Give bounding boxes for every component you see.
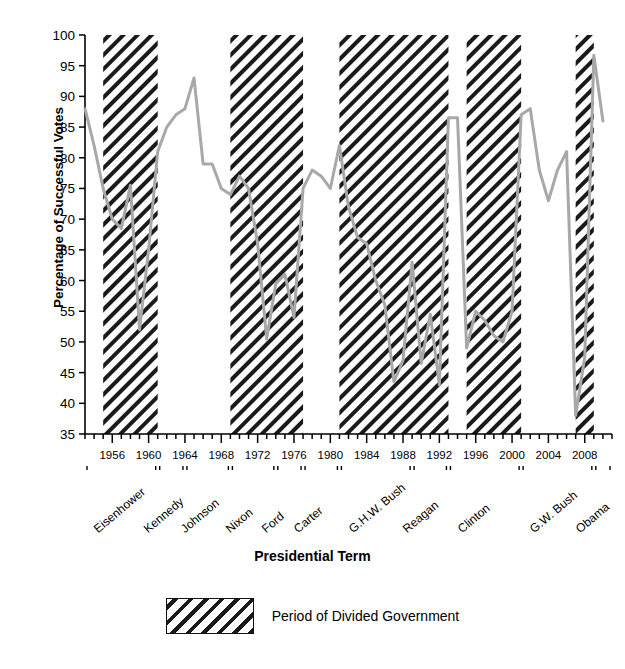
divided-government-regions: [103, 35, 594, 434]
svg-text:1960: 1960: [136, 449, 162, 461]
president-label: Reagan: [400, 498, 441, 536]
svg-text:90: 90: [60, 89, 75, 104]
svg-text:2004: 2004: [536, 449, 562, 461]
svg-text:65: 65: [60, 243, 75, 258]
divided-government-span: [467, 35, 522, 434]
svg-text:95: 95: [60, 59, 75, 74]
chart-figure: Percentage of Successful Votes 354045505…: [0, 0, 625, 669]
term-bracket: [450, 466, 519, 470]
svg-text:2008: 2008: [572, 449, 598, 461]
president-label: G.H.W. Bush: [346, 480, 408, 535]
term-bracket: [341, 466, 410, 470]
svg-text:1976: 1976: [281, 449, 307, 461]
plot-area: 3540455055606570758085909510019561960196…: [0, 0, 625, 470]
divided-government-swatch-icon: [166, 598, 254, 634]
president-label: Clinton: [455, 501, 493, 536]
legend-label: Period of Divided Government: [272, 608, 460, 624]
svg-text:80: 80: [60, 151, 75, 166]
divided-government-span: [576, 35, 594, 434]
term-bracket: [523, 466, 592, 470]
president-label: Obama: [573, 500, 612, 536]
term-bracket: [305, 466, 337, 470]
president-label: G.W. Bush: [527, 488, 580, 536]
term-bracket: [414, 466, 446, 470]
svg-text:45: 45: [60, 366, 75, 381]
svg-text:1980: 1980: [318, 449, 344, 461]
svg-text:60: 60: [60, 274, 75, 289]
svg-text:2000: 2000: [499, 449, 525, 461]
president-label: Kennedy: [141, 495, 186, 536]
svg-text:100: 100: [52, 28, 75, 43]
divided-government-span: [230, 35, 303, 434]
svg-text:50: 50: [60, 335, 75, 350]
svg-text:40: 40: [60, 396, 75, 411]
term-bracket: [596, 466, 610, 470]
svg-text:1964: 1964: [172, 449, 198, 461]
svg-text:70: 70: [60, 212, 75, 227]
svg-text:1972: 1972: [245, 449, 271, 461]
svg-text:1992: 1992: [427, 449, 453, 461]
svg-text:1984: 1984: [354, 449, 380, 461]
svg-text:75: 75: [60, 181, 75, 196]
president-label: Johnson: [178, 496, 222, 536]
president-label: Ford: [259, 509, 287, 536]
term-bracket: [187, 466, 228, 470]
term-bracket: [278, 466, 301, 470]
svg-text:85: 85: [60, 120, 75, 135]
president-label: Eisenhower: [91, 485, 148, 536]
svg-text:55: 55: [60, 304, 75, 319]
term-bracket: [87, 466, 156, 470]
x-axis-title: Presidential Term: [0, 548, 625, 564]
term-bracket: [160, 466, 183, 470]
chart-legend: Period of Divided Government: [0, 598, 625, 634]
svg-text:1988: 1988: [390, 449, 416, 461]
svg-text:1996: 1996: [463, 449, 489, 461]
svg-text:35: 35: [60, 427, 75, 442]
svg-text:1968: 1968: [208, 449, 234, 461]
svg-text:1956: 1956: [99, 449, 125, 461]
chart-svg: 3540455055606570758085909510019561960196…: [0, 0, 625, 470]
term-bracket: [232, 466, 273, 470]
president-label: Nixon: [223, 505, 256, 535]
president-label: Carter: [291, 504, 326, 536]
